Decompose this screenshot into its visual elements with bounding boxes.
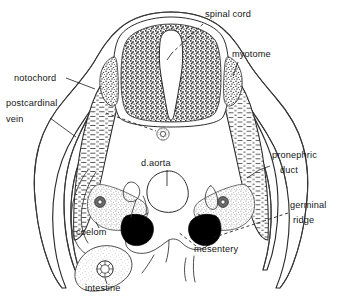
dorsal-aorta — [147, 171, 188, 212]
label-pronephric: pronephric — [272, 150, 317, 160]
label-notochord: notochord — [14, 73, 56, 83]
label-coelom: coelom — [76, 227, 107, 237]
label-ridge: ridge — [293, 215, 314, 225]
label-postcardinal: postcardinal — [6, 98, 57, 108]
pronephric-tubule-right — [218, 197, 229, 208]
germinal-ridge-right — [189, 214, 221, 245]
notochord-circle — [157, 128, 169, 140]
diagram-canvas: spinal cord myotome notochord postcardin… — [0, 0, 342, 296]
pronephric-tubule-left — [95, 197, 106, 208]
label-mesentery: mesentery — [194, 244, 238, 254]
label-d-aorta: d.aorta — [141, 158, 171, 168]
spinal-cord — [113, 17, 229, 127]
germinal-ridge-left — [121, 214, 153, 245]
label-duct: duct — [280, 165, 298, 175]
label-spinal-cord: spinal cord — [205, 9, 251, 19]
ventral-folds-right — [185, 256, 196, 282]
embryo-cross-section-diagram: spinal cord myotome notochord postcardin… — [0, 0, 342, 296]
label-vein: vein — [6, 114, 23, 124]
label-germinal: germinal — [290, 200, 326, 210]
label-intestine: intestine — [85, 283, 121, 293]
label-myotome: myotome — [232, 49, 271, 59]
